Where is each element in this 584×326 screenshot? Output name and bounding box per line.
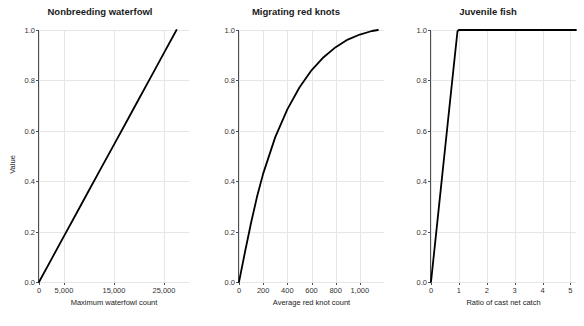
x-tick-label: 2 bbox=[485, 286, 489, 295]
y-tick-label: 1.0 bbox=[25, 26, 39, 35]
y-tick-label: 0.2 bbox=[417, 227, 431, 236]
plot-area-waterfowl: 05,00015,00025,0000.00.20.40.60.81.0Maxi… bbox=[38, 30, 189, 283]
y-tick-label: 0.6 bbox=[417, 126, 431, 135]
y-tick-label: 0.0 bbox=[417, 278, 431, 287]
y-tick-label: 0.8 bbox=[25, 76, 39, 85]
y-tick-label: 0.8 bbox=[417, 76, 431, 85]
data-curve bbox=[431, 30, 576, 282]
y-tick-label: 0.6 bbox=[25, 126, 39, 135]
y-tick-label: 0.4 bbox=[225, 177, 239, 186]
y-tick-label: 1.0 bbox=[225, 26, 239, 35]
x-tick-label: 5,000 bbox=[55, 286, 74, 295]
data-curve bbox=[239, 30, 384, 282]
y-tick-label: 0.2 bbox=[25, 227, 39, 236]
x-tick-label: 25,000 bbox=[153, 286, 176, 295]
gridline-horizontal bbox=[431, 282, 576, 283]
y-tick-label: 0.2 bbox=[225, 227, 239, 236]
panel-migrating-red-knots: Migrating red knots 02004006008001,0000.… bbox=[200, 0, 392, 326]
x-tick-label: 1 bbox=[457, 286, 461, 295]
y-tick-label: 0.4 bbox=[25, 177, 39, 186]
figure: Nonbreeding waterfowl Value 05,00015,000… bbox=[0, 0, 584, 326]
data-curve bbox=[39, 30, 189, 282]
y-tick-label: 0.6 bbox=[225, 126, 239, 135]
panel-title: Nonbreeding waterfowl bbox=[0, 6, 200, 17]
panel-juvenile-fish: Juvenile fish 0123450.00.20.40.60.81.0Ra… bbox=[392, 0, 584, 326]
gridline-horizontal bbox=[239, 282, 384, 283]
x-tick-label: 400 bbox=[281, 286, 294, 295]
panel-title: Migrating red knots bbox=[200, 6, 392, 17]
y-tick-label: 0.8 bbox=[225, 76, 239, 85]
x-tick-label: 5 bbox=[568, 286, 572, 295]
x-tick-label: 4 bbox=[540, 286, 544, 295]
plot-area-juvenile-fish: 0123450.00.20.40.60.81.0Ratio of cast ne… bbox=[430, 30, 576, 283]
x-axis-label: Maximum waterfowl count bbox=[39, 298, 189, 307]
panel-nonbreeding-waterfowl: Nonbreeding waterfowl Value 05,00015,000… bbox=[0, 0, 200, 326]
y-axis-label: Value bbox=[8, 145, 17, 185]
y-tick-label: 0.0 bbox=[225, 278, 239, 287]
x-tick-label: 600 bbox=[305, 286, 318, 295]
x-tick-label: 0 bbox=[37, 286, 41, 295]
x-axis-label: Average red knot count bbox=[239, 298, 384, 307]
x-axis-label: Ratio of cast net catch bbox=[431, 298, 576, 307]
x-tick-label: 0 bbox=[429, 286, 433, 295]
y-tick-label: 1.0 bbox=[417, 26, 431, 35]
y-tick-label: 0.4 bbox=[417, 177, 431, 186]
x-tick-label: 3 bbox=[513, 286, 517, 295]
x-tick-label: 0 bbox=[237, 286, 241, 295]
x-tick-label: 800 bbox=[329, 286, 342, 295]
plot-area-red-knots: 02004006008001,0000.00.20.40.60.81.0Aver… bbox=[238, 30, 384, 283]
x-tick-label: 15,000 bbox=[103, 286, 126, 295]
x-tick-label: 1,000 bbox=[350, 286, 369, 295]
gridline-horizontal bbox=[39, 282, 189, 283]
panel-title: Juvenile fish bbox=[392, 6, 584, 17]
x-tick-label: 200 bbox=[257, 286, 270, 295]
y-tick-label: 0.0 bbox=[25, 278, 39, 287]
